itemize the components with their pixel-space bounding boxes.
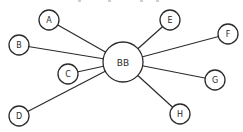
node-label: F [226, 30, 231, 39]
node-label: E [167, 16, 172, 25]
node-e: E [160, 10, 180, 30]
node-label: C [65, 70, 71, 79]
node-h: H [170, 104, 190, 124]
node-a: A [39, 10, 59, 30]
node-label: B [16, 41, 22, 50]
hub-node: BB [103, 42, 143, 82]
node-label: D [16, 112, 22, 121]
node-d: D [9, 106, 29, 126]
node-label: G [212, 76, 218, 85]
node-b: B [9, 35, 29, 55]
nodes-layer: BBABCDEFGH [9, 10, 238, 126]
star-diagram: BBABCDEFGH [0, 0, 243, 132]
hub-node-label: BB [117, 58, 129, 68]
node-c: C [58, 64, 78, 84]
node-label: H [177, 110, 183, 119]
cut-off-title [78, 0, 159, 2]
node-f: F [218, 24, 238, 44]
node-label: A [46, 16, 52, 25]
node-g: G [205, 70, 225, 90]
